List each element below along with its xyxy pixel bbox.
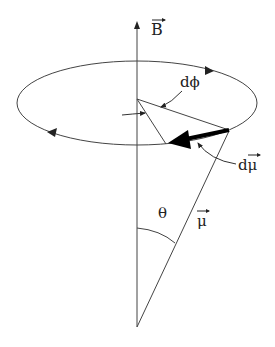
- ellipse-arrow-left-icon: [47, 128, 57, 137]
- ellipse-arrow-right-icon: [205, 66, 214, 75]
- label-theta: θ: [158, 204, 167, 222]
- label-dmu: dμ: [238, 153, 261, 174]
- b-field-axis: [134, 21, 140, 327]
- mu-projection-line-new: [137, 99, 166, 144]
- axis-arrowhead-icon: [134, 21, 140, 29]
- svg-text:B: B: [151, 20, 163, 39]
- dmu-pointer-arrow: [198, 143, 236, 164]
- label-mu: μ: [197, 209, 210, 230]
- svg-text:μ: μ: [197, 212, 207, 230]
- label-b: B: [151, 18, 166, 39]
- angle-pointer-arrow: [122, 113, 145, 115]
- theta-arc: [137, 228, 175, 243]
- diagram-svg: B dϕ dμ θ μ: [0, 0, 275, 347]
- dphi-pointer-arrow: [161, 91, 182, 107]
- mu-projection-line: [137, 99, 229, 130]
- mu-vector-line: [137, 131, 229, 327]
- svg-text:dμ: dμ: [238, 156, 258, 174]
- label-dphi: dϕ: [180, 73, 200, 91]
- precession-diagram: B dϕ dμ θ μ: [0, 0, 275, 347]
